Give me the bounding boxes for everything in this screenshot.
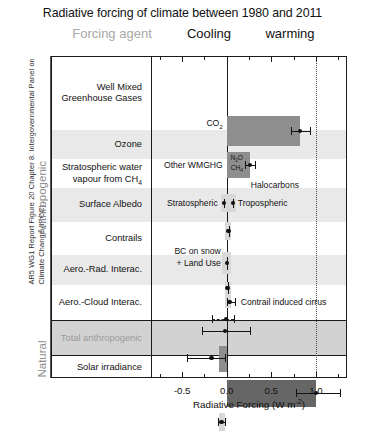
header-warming: warming <box>250 26 330 41</box>
axis-tick <box>338 374 339 378</box>
axis-tick <box>227 56 228 62</box>
header-forcing-agent: Forcing agent <box>52 26 172 41</box>
total-anthropogenic-cap-low <box>296 389 297 396</box>
other-wmghg-cap-low <box>245 161 246 168</box>
strat-h2o-marker <box>226 229 230 233</box>
axis-tick-label: -0.5 <box>174 385 191 396</box>
axis-tick <box>338 56 339 60</box>
annotation-stratospheric: Stratospheric <box>151 198 218 208</box>
solar-irradiance-cap-high <box>225 418 226 425</box>
aero-cloud-whisker <box>187 358 225 359</box>
axis-tick <box>182 372 183 378</box>
contrails-marker <box>225 286 229 290</box>
annotation-bc-on-snow: BC on snow <box>151 246 221 256</box>
plot-area: CO2Other WMGHGN2OCH4HalocarbonsStratosph… <box>151 56 347 378</box>
aero-cloud-marker <box>209 356 213 360</box>
axis-tick <box>316 372 317 378</box>
annotation-co2: CO2 <box>151 118 223 130</box>
axis-tick <box>294 56 295 60</box>
bar-co2 <box>227 116 300 146</box>
figure-title: Radiative forcing of climate between 198… <box>0 6 365 20</box>
axis-tick <box>249 374 250 378</box>
aero-rad-outer-cap-high <box>250 327 251 334</box>
annotation-land-use: + Land Use <box>151 258 221 268</box>
axis-tick <box>204 374 205 378</box>
annotation-other-wmghg: Other WMGHG <box>151 160 223 170</box>
surface-albedo-marker <box>225 261 229 265</box>
annotation-halocarbons: Halocarbons <box>251 180 299 190</box>
axis-tick <box>160 56 161 60</box>
header-cooling: Cooling <box>173 26 245 41</box>
axis-tick <box>249 56 250 60</box>
other-wmghg-cap-high <box>255 161 256 168</box>
axis-tick <box>160 374 161 378</box>
solar-irradiance-marker <box>219 420 223 424</box>
top-axis-ticks <box>151 56 347 57</box>
axis-tick <box>271 372 272 378</box>
axis-tick <box>227 372 228 378</box>
axis-tick <box>294 374 295 378</box>
axis-tick-label: 0.0 <box>220 385 233 396</box>
aero-rad-inner-cap-low <box>212 315 213 322</box>
co2-cap-low <box>291 127 292 134</box>
other-wmghg-marker <box>248 163 252 167</box>
aero-cloud-cap-high <box>225 354 226 361</box>
axis-tick <box>316 56 317 62</box>
x-axis: -0.50.00.51.0 <box>151 378 347 379</box>
axis-tick <box>182 56 183 62</box>
total-anthropogenic-cap-high <box>340 389 341 396</box>
axis-tick <box>271 56 272 62</box>
axis-tick-label: 1.0 <box>309 385 322 396</box>
annotation-contrail-cirrus: Contrail induced cirrus <box>241 297 327 307</box>
aero-rad-outer-cap-low <box>202 327 203 334</box>
reference-line-1 <box>316 56 317 378</box>
aero-rad-inner-cap-high <box>234 315 235 322</box>
annotation-tropospheric: Tropospheric <box>238 198 288 208</box>
aero-cloud-cap-low <box>187 354 188 361</box>
aero-rad-inner-whisker <box>212 319 234 320</box>
axis-tick <box>204 56 205 60</box>
co2-marker <box>298 129 302 133</box>
axis-tick-label: 0.5 <box>265 385 278 396</box>
contrail-cirrus-cap-high <box>235 298 236 305</box>
co2-cap-high <box>310 127 311 134</box>
annotation-wmghg-components: N2OCH4 <box>229 155 245 175</box>
x-axis-title: Radiative Forcing (W m-2) <box>151 398 347 410</box>
contrail-cirrus-marker <box>227 300 231 304</box>
